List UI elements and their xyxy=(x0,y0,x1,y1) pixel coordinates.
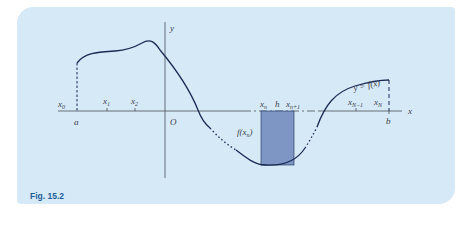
tick-label-x0: x0 xyxy=(57,99,65,110)
bound-label-a: a xyxy=(74,117,79,127)
step-label-h: h xyxy=(275,99,280,109)
function-curve-dotted-1 xyxy=(210,128,236,150)
x-axis-label: x xyxy=(407,106,412,116)
curve-label: y = f(x) xyxy=(351,78,381,94)
tick-label-xN-1: xN−1 xyxy=(347,97,363,108)
figure-caption: Fig. 15.2 xyxy=(30,191,64,201)
function-curve-dotted-2 xyxy=(305,127,317,148)
tick-label-x1: x1 xyxy=(102,96,110,107)
function-curve xyxy=(77,41,210,128)
tick-label-x2: x2 xyxy=(130,96,138,107)
tick-label-xN: xN xyxy=(373,97,383,108)
tick-label-xn1: xn+1 xyxy=(285,99,300,110)
origin-label: O xyxy=(170,117,177,127)
bound-label-b: b xyxy=(386,116,391,126)
riemann-sum-diagram: y x O x0 x1 x2 xn h xn+1 xN−1 xN a b f(x… xyxy=(0,0,476,225)
strip-height-label: f(xn) xyxy=(237,127,253,138)
tick-label-xn: xn xyxy=(259,99,267,110)
y-axis-label: y xyxy=(169,23,174,33)
shaded-strip xyxy=(261,111,294,165)
